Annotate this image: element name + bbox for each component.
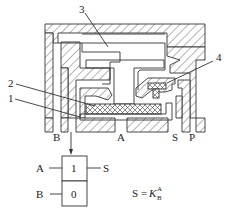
- housing: [45, 24, 205, 132]
- logic-top-cell: 1: [71, 162, 77, 174]
- exhaust-arrow-icon: [69, 132, 73, 155]
- equation-base: K: [148, 187, 157, 199]
- port-p-label: P: [189, 131, 195, 143]
- logic-input-b: B: [36, 188, 43, 200]
- port-s-label: S: [172, 131, 178, 143]
- port-b-label: B: [53, 131, 60, 143]
- logic-output-s: S: [103, 162, 109, 174]
- logic-bottom-cell: 0: [71, 188, 77, 200]
- equation-sup: A: [157, 185, 162, 193]
- membrane: [86, 104, 161, 114]
- equation-lhs: S: [132, 187, 138, 199]
- label-3: 3: [79, 3, 85, 15]
- equation-eq: =: [141, 187, 147, 199]
- port-a-label: A: [117, 131, 125, 143]
- label-2: 2: [8, 77, 14, 89]
- label-4: 4: [216, 51, 222, 63]
- label-1: 1: [8, 92, 14, 104]
- equation-sub: B: [157, 194, 162, 202]
- valve-diagram: 3 4 2 1 B A S P 1 0 A B S S = K B A: [0, 0, 230, 222]
- logic-input-a: A: [36, 162, 44, 174]
- equation: S = K B A: [132, 185, 162, 202]
